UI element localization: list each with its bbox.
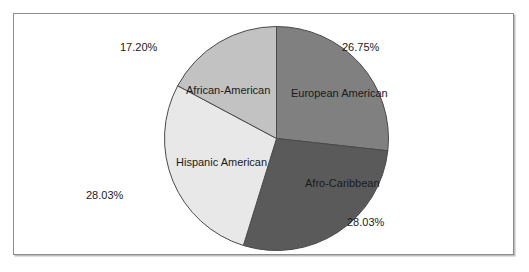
slice-label-european-american: European American	[291, 88, 388, 99]
slice-label-afro-caribbean: Afro-Caribbean	[305, 178, 380, 189]
slice-label-african-american: African-American	[186, 85, 270, 96]
percent-label-afro-caribbean: 28.03%	[347, 217, 384, 228]
percent-label-african-american: 17.20%	[120, 42, 157, 53]
percent-label-hispanic-american: 28.03%	[86, 190, 123, 201]
pie-chart-canvas	[0, 0, 529, 272]
percent-label-european-american: 26.75%	[342, 42, 379, 53]
slice-label-hispanic-american: Hispanic American	[176, 157, 267, 168]
pie-chart-figure: European American Afro-Caribbean Hispani…	[0, 0, 529, 272]
